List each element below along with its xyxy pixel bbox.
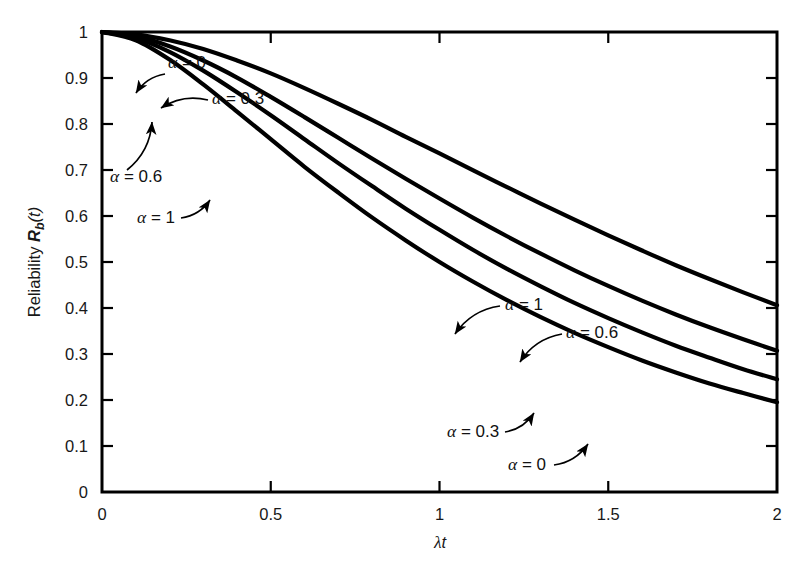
x-axis-title: λt xyxy=(433,532,448,552)
annotation-label-right-alpha-1: α = 1 xyxy=(505,294,543,314)
reliability-chart-figure: 00.10.20.30.40.50.60.70.80.91 00.511.52 … xyxy=(0,0,807,563)
y-tick-label: 0.9 xyxy=(65,69,88,87)
y-tick-label: 0.6 xyxy=(65,207,88,225)
x-tick-label: 0.5 xyxy=(259,505,282,523)
y-tick-label: 0.4 xyxy=(65,299,88,317)
x-tick-label: 1.5 xyxy=(597,505,620,523)
y-tick-label: 0.8 xyxy=(65,115,88,133)
annotation-label-left-alpha-1: α = 1 xyxy=(137,207,175,227)
y-tick-label: 0.7 xyxy=(65,161,88,179)
annotation-label-left-alpha-03: α = 0.3 xyxy=(212,88,264,108)
annotation-label-left-alpha-06: α = 0.6 xyxy=(110,166,162,186)
y-tick-label: 0.2 xyxy=(65,391,88,409)
svg-text:λt: λt xyxy=(433,532,448,552)
y-tick-label: 1 xyxy=(79,23,88,41)
annotation-label-right-alpha-03: α = 0.3 xyxy=(447,421,499,441)
x-tick-label: 0 xyxy=(97,505,106,523)
annotation-label-right-alpha-06: α = 0.6 xyxy=(566,322,618,342)
chart-background xyxy=(0,0,807,563)
y-tick-label: 0.3 xyxy=(65,345,88,363)
y-axis-title-arg: (t) xyxy=(25,207,43,223)
y-tick-label: 0 xyxy=(79,483,88,501)
x-tick-label: 2 xyxy=(772,505,781,523)
annotation-label-left-alpha-0: α = 0 xyxy=(168,52,206,72)
y-axis-title-symbol: R xyxy=(25,230,43,242)
x-tick-label: 1 xyxy=(435,505,444,523)
y-tick-label: 0.1 xyxy=(65,437,88,455)
chart-canvas: 00.10.20.30.40.50.60.70.80.91 00.511.52 … xyxy=(0,0,807,563)
annotation-label-right-alpha-0: α = 0 xyxy=(508,454,546,474)
y-axis-title-word: Reliability xyxy=(25,246,43,317)
y-tick-label: 0.5 xyxy=(65,253,88,271)
